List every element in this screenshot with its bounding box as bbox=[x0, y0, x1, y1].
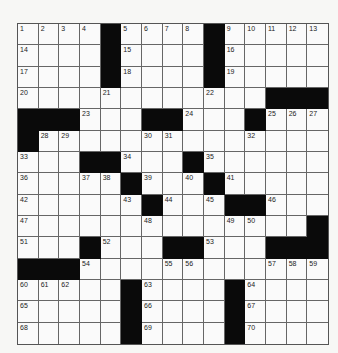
grid-cell[interactable] bbox=[183, 301, 204, 322]
grid-cell[interactable]: 40 bbox=[183, 173, 204, 194]
grid-cell[interactable] bbox=[142, 152, 163, 173]
grid-cell[interactable] bbox=[307, 280, 328, 301]
grid-cell[interactable] bbox=[80, 45, 101, 66]
grid-cell[interactable]: 63 bbox=[142, 280, 163, 301]
grid-cell[interactable] bbox=[307, 67, 328, 88]
grid-cell[interactable] bbox=[204, 301, 225, 322]
grid-cell[interactable] bbox=[307, 45, 328, 66]
grid-cell[interactable] bbox=[59, 88, 80, 109]
grid-cell[interactable] bbox=[183, 131, 204, 152]
grid-cell[interactable] bbox=[307, 152, 328, 173]
grid-cell[interactable] bbox=[59, 195, 80, 216]
grid-cell[interactable]: 3 bbox=[59, 24, 80, 45]
grid-cell[interactable] bbox=[266, 216, 287, 237]
grid-cell[interactable]: 45 bbox=[204, 195, 225, 216]
grid-cell[interactable]: 43 bbox=[121, 195, 142, 216]
grid-cell[interactable]: 48 bbox=[142, 216, 163, 237]
grid-cell[interactable]: 69 bbox=[142, 323, 163, 344]
grid-cell[interactable] bbox=[80, 67, 101, 88]
grid-cell[interactable] bbox=[307, 131, 328, 152]
grid-cell[interactable]: 36 bbox=[18, 173, 39, 194]
grid-cell[interactable] bbox=[183, 67, 204, 88]
grid-cell[interactable] bbox=[121, 259, 142, 280]
grid-cell[interactable]: 58 bbox=[287, 259, 308, 280]
grid-cell[interactable] bbox=[204, 323, 225, 344]
grid-cell[interactable]: 11 bbox=[266, 24, 287, 45]
grid-cell[interactable] bbox=[59, 216, 80, 237]
grid-cell[interactable]: 42 bbox=[18, 195, 39, 216]
grid-cell[interactable] bbox=[266, 173, 287, 194]
grid-cell[interactable]: 10 bbox=[245, 24, 266, 45]
grid-cell[interactable] bbox=[80, 216, 101, 237]
grid-cell[interactable] bbox=[39, 152, 60, 173]
grid-cell[interactable] bbox=[121, 237, 142, 258]
grid-cell[interactable]: 41 bbox=[225, 173, 246, 194]
grid-cell[interactable] bbox=[245, 237, 266, 258]
grid-cell[interactable] bbox=[163, 280, 184, 301]
grid-cell[interactable] bbox=[101, 131, 122, 152]
grid-cell[interactable] bbox=[245, 152, 266, 173]
grid-cell[interactable] bbox=[307, 173, 328, 194]
grid-cell[interactable] bbox=[101, 109, 122, 130]
grid-cell[interactable] bbox=[183, 195, 204, 216]
grid-cell[interactable]: 9 bbox=[225, 24, 246, 45]
grid-cell[interactable] bbox=[39, 173, 60, 194]
grid-cell[interactable] bbox=[39, 301, 60, 322]
grid-cell[interactable] bbox=[39, 195, 60, 216]
grid-cell[interactable]: 27 bbox=[307, 109, 328, 130]
grid-cell[interactable] bbox=[183, 280, 204, 301]
grid-cell[interactable] bbox=[287, 323, 308, 344]
grid-cell[interactable]: 32 bbox=[245, 131, 266, 152]
grid-cell[interactable] bbox=[266, 67, 287, 88]
grid-cell[interactable]: 24 bbox=[183, 109, 204, 130]
grid-cell[interactable] bbox=[287, 152, 308, 173]
grid-cell[interactable] bbox=[80, 195, 101, 216]
grid-cell[interactable] bbox=[101, 216, 122, 237]
grid-cell[interactable] bbox=[59, 237, 80, 258]
grid-cell[interactable]: 56 bbox=[183, 259, 204, 280]
grid-cell[interactable] bbox=[121, 216, 142, 237]
grid-cell[interactable] bbox=[307, 323, 328, 344]
grid-cell[interactable]: 23 bbox=[80, 109, 101, 130]
grid-cell[interactable]: 13 bbox=[307, 24, 328, 45]
grid-cell[interactable] bbox=[287, 67, 308, 88]
grid-cell[interactable] bbox=[266, 323, 287, 344]
grid-cell[interactable]: 2 bbox=[39, 24, 60, 45]
grid-cell[interactable]: 28 bbox=[39, 131, 60, 152]
grid-cell[interactable] bbox=[121, 131, 142, 152]
grid-cell[interactable] bbox=[39, 67, 60, 88]
grid-cell[interactable] bbox=[266, 131, 287, 152]
grid-cell[interactable]: 16 bbox=[225, 45, 246, 66]
grid-cell[interactable] bbox=[225, 237, 246, 258]
grid-cell[interactable] bbox=[183, 323, 204, 344]
grid-cell[interactable] bbox=[287, 131, 308, 152]
grid-cell[interactable] bbox=[287, 301, 308, 322]
grid-cell[interactable]: 14 bbox=[18, 45, 39, 66]
grid-cell[interactable] bbox=[121, 88, 142, 109]
grid-cell[interactable] bbox=[245, 67, 266, 88]
grid-cell[interactable]: 59 bbox=[307, 259, 328, 280]
grid-cell[interactable] bbox=[59, 45, 80, 66]
grid-cell[interactable] bbox=[245, 45, 266, 66]
grid-cell[interactable] bbox=[245, 88, 266, 109]
grid-cell[interactable] bbox=[59, 152, 80, 173]
grid-cell[interactable] bbox=[59, 301, 80, 322]
grid-cell[interactable] bbox=[307, 301, 328, 322]
grid-cell[interactable]: 12 bbox=[287, 24, 308, 45]
grid-cell[interactable]: 15 bbox=[121, 45, 142, 66]
grid-cell[interactable]: 49 bbox=[225, 216, 246, 237]
grid-cell[interactable]: 25 bbox=[266, 109, 287, 130]
grid-cell[interactable] bbox=[163, 45, 184, 66]
grid-cell[interactable] bbox=[163, 67, 184, 88]
grid-cell[interactable] bbox=[39, 323, 60, 344]
grid-cell[interactable]: 29 bbox=[59, 131, 80, 152]
grid-cell[interactable]: 18 bbox=[121, 67, 142, 88]
grid-cell[interactable] bbox=[101, 280, 122, 301]
grid-cell[interactable]: 17 bbox=[18, 67, 39, 88]
grid-cell[interactable] bbox=[101, 195, 122, 216]
grid-cell[interactable]: 8 bbox=[183, 24, 204, 45]
grid-cell[interactable] bbox=[101, 259, 122, 280]
grid-cell[interactable] bbox=[204, 259, 225, 280]
grid-cell[interactable] bbox=[39, 237, 60, 258]
grid-cell[interactable] bbox=[163, 216, 184, 237]
